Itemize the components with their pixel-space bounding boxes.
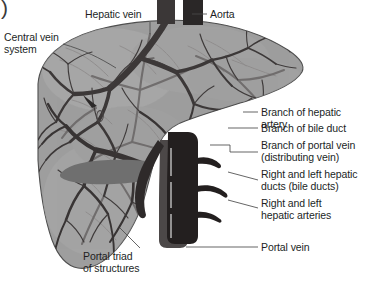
label-hepatic-ducts: Right and left hepatic ducts (bile ducts…: [261, 168, 357, 192]
label-portal-vein: Portal vein: [261, 241, 310, 253]
label-branch-portal-vein: Branch of portal vein (distributing vein…: [261, 139, 355, 163]
leader-branch-portal-vein: [210, 145, 258, 152]
label-hepatic-vein: Hepatic vein: [85, 8, 142, 20]
label-branch-bile-duct: Branch of bile duct: [261, 122, 346, 134]
leader-hepatic-arteries: [228, 200, 258, 208]
aorta-trunk: [183, 0, 203, 25]
vessel-branch-stubs: [197, 157, 227, 222]
label-aorta: Aorta: [210, 8, 235, 20]
leader-hepatic-ducts: [228, 172, 258, 180]
hepatic-vein-trunk: [157, 0, 175, 24]
label-portal-triad: Portal triad of structures: [83, 250, 139, 274]
label-hepatic-arteries: Right and left hepatic arteries: [261, 197, 331, 221]
label-central-vein-system: Central vein system: [4, 31, 59, 55]
